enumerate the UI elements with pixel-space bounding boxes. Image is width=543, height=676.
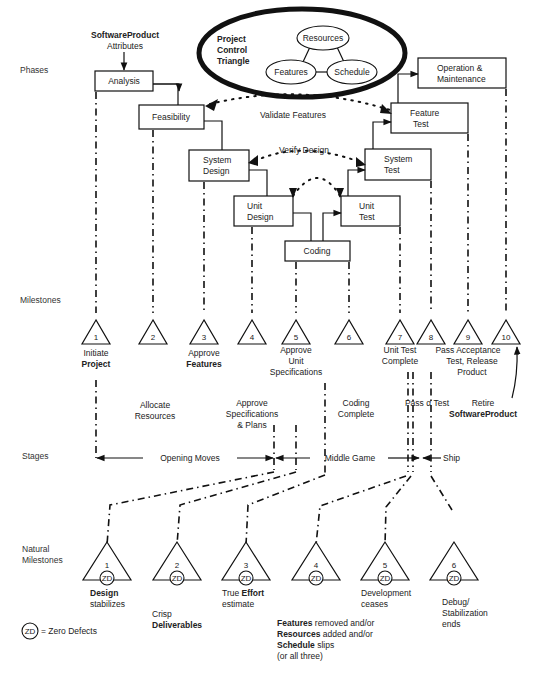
svg-text:3: 3 (202, 333, 207, 342)
svg-text:Development: Development (361, 588, 412, 598)
row-label-natural-2: Milestones (22, 555, 63, 565)
row-label-milestones: Milestones (20, 295, 61, 305)
svg-text:6: 6 (347, 333, 352, 342)
svg-text:Stabilization: Stabilization (442, 608, 488, 618)
approve-spec-3: & Plans (237, 420, 266, 430)
svg-text:ZD: ZD (241, 574, 252, 583)
svg-text:4: 4 (314, 561, 319, 570)
svg-text:ZD: ZD (102, 574, 113, 583)
svg-text:Crisp: Crisp (152, 609, 172, 619)
svg-text:Debug/: Debug/ (442, 597, 470, 607)
retire-label-2: SoftwareProduct (449, 409, 517, 419)
natural-milestone-5: 5 ZD Development ceases (361, 542, 412, 609)
retire-label-1: Retire (472, 398, 495, 408)
svg-text:Features: Features (186, 359, 222, 369)
product-attributes-title: SoftwareProduct (91, 30, 159, 40)
svg-text:Specifications: Specifications (270, 367, 322, 377)
svg-text:5: 5 (383, 561, 388, 570)
project-control-triangle: Project Control Triangle Resources Featu… (199, 9, 405, 97)
svg-text:System: System (203, 155, 231, 165)
pass-alpha-test: Pass α Test (405, 398, 450, 408)
svg-text:Unit Test: Unit Test (384, 345, 418, 355)
svg-text:Feature: Feature (410, 108, 440, 118)
svg-text:Project: Project (82, 359, 111, 369)
svg-text:2: 2 (175, 561, 180, 570)
svg-text:ZD: ZD (172, 574, 183, 583)
row-label-phases: Phases (20, 65, 48, 75)
svg-text:2: 2 (151, 333, 156, 342)
validate-features-label: Validate Features (260, 110, 326, 120)
milestone-3: 3 Approve Features (186, 320, 222, 369)
svg-text:True Effort: True Effort (222, 588, 264, 598)
milestone-1: 1 Initiate Project (82, 320, 111, 369)
svg-text:ZD: ZD (380, 574, 391, 583)
phase-feasibility: Feasibility (139, 105, 204, 129)
svg-text:ends: ends (442, 619, 460, 629)
phase-operation-maintenance: Operation & Maintenance (418, 58, 506, 88)
milestone-5: 5 Approve Unit Specifications (270, 320, 322, 377)
svg-text:Project: Project (217, 34, 246, 44)
svg-text:Design: Design (90, 588, 118, 598)
svg-text:Analysis: Analysis (108, 76, 140, 86)
svg-text:Feasibility: Feasibility (152, 112, 191, 122)
row-label-stages: Stages (22, 451, 48, 461)
phase-system-design: System Design (189, 150, 249, 181)
natural-milestone-2: 2 ZD Crisp Deliverables (152, 542, 202, 630)
svg-text:5: 5 (294, 333, 299, 342)
phase-system-test: System Test (365, 149, 431, 180)
svg-text:ZD: ZD (449, 574, 460, 583)
svg-text:estimate: estimate (222, 599, 254, 609)
svg-text:Schedule: Schedule (334, 67, 370, 77)
svg-text:Test: Test (413, 119, 429, 129)
svg-text:Maintenance: Maintenance (437, 74, 486, 84)
phase-feature-test: Feature Test (391, 103, 468, 133)
svg-text:Design: Design (247, 212, 274, 222)
lifecycle-diagram: Phases Milestones Stages Natural Milesto… (0, 0, 543, 676)
milestone-10: 10 (492, 320, 520, 344)
approve-spec-1: Approve (236, 398, 268, 408)
svg-text:Unit: Unit (359, 201, 375, 211)
svg-text:Features removed and/or: Features removed and/or (277, 618, 375, 628)
natural-milestone-3: 3 ZD True Effort estimate (222, 542, 270, 609)
svg-text:Resources: Resources (303, 33, 344, 43)
milestone-6: 6 (335, 320, 363, 344)
verify-design-label: Verify Design (279, 145, 329, 155)
svg-text:stabilizes: stabilizes (90, 599, 125, 609)
svg-text:Product: Product (457, 367, 487, 377)
natural-milestone-6: 6 ZD Debug/ Stabilization ends (430, 542, 488, 629)
phase-analysis: Analysis (95, 71, 153, 91)
svg-text:ZD: ZD (25, 627, 36, 636)
svg-text:(or all three): (or all three) (277, 651, 323, 661)
svg-text:= Zero Defects: = Zero Defects (41, 626, 97, 636)
svg-text:System: System (384, 154, 412, 164)
milestone-2: 2 (139, 320, 167, 344)
svg-text:3: 3 (244, 561, 249, 570)
phase-unit-design: Unit Design (234, 196, 293, 226)
coding-complete-2: Complete (338, 409, 375, 419)
svg-text:8: 8 (429, 333, 434, 342)
zero-defects-legend: ZD = Zero Defects (22, 623, 97, 639)
svg-text:Schedule slips: Schedule slips (277, 640, 334, 650)
coding-complete-1: Coding (343, 398, 370, 408)
svg-text:Unit: Unit (288, 356, 304, 366)
svg-text:Design: Design (203, 166, 230, 176)
svg-text:9: 9 (466, 333, 471, 342)
svg-text:Pass Acceptance: Pass Acceptance (435, 345, 500, 355)
milestone-7: 7 Unit Test Complete (382, 320, 419, 366)
svg-text:1: 1 (105, 561, 110, 570)
svg-text:7: 7 (398, 333, 403, 342)
svg-text:Test, Release: Test, Release (446, 356, 498, 366)
svg-text:Complete: Complete (382, 356, 419, 366)
milestone-8: 8 (417, 320, 445, 344)
stage-middle-game: Middle Game (325, 453, 376, 463)
svg-text:Resources added and/or: Resources added and/or (277, 629, 373, 639)
row-label-natural-1: Natural (22, 544, 50, 554)
milestone-4: 4 (238, 320, 266, 344)
svg-text:Features: Features (274, 67, 308, 77)
svg-text:ZD: ZD (311, 574, 322, 583)
svg-text:Coding: Coding (304, 246, 331, 256)
svg-text:ceases: ceases (361, 599, 388, 609)
natural-milestone-1: 1 ZD Design stabilizes (83, 542, 131, 609)
svg-text:Deliverables: Deliverables (152, 620, 202, 630)
svg-text:1: 1 (94, 333, 99, 342)
